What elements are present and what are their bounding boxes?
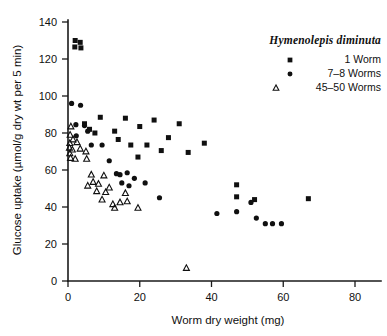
data-point-circle bbox=[157, 195, 162, 200]
data-point-square bbox=[186, 150, 191, 155]
x-tick-marks bbox=[68, 281, 355, 287]
data-point-square bbox=[116, 137, 121, 142]
x-tick-label: 60 bbox=[277, 291, 289, 303]
legend-label: 45–50 Worms bbox=[316, 81, 381, 93]
data-point-square bbox=[177, 121, 182, 126]
data-point-square bbox=[112, 129, 117, 134]
y-tick-label: 40 bbox=[45, 201, 57, 213]
data-point-triangle bbox=[183, 265, 189, 271]
data-point-square bbox=[73, 38, 78, 43]
data-point-circle bbox=[234, 209, 239, 214]
y-tick-label: 80 bbox=[45, 127, 57, 139]
data-point-circle bbox=[125, 170, 130, 175]
data-point-triangle bbox=[135, 205, 141, 211]
data-point-circle bbox=[73, 122, 78, 127]
data-point-circle bbox=[117, 172, 122, 177]
x-tick-labels: 020406080 bbox=[65, 291, 361, 303]
y-tick-label: 100 bbox=[39, 90, 57, 102]
y-tick-label: 120 bbox=[39, 53, 57, 65]
data-point-triangle bbox=[117, 199, 123, 205]
data-point-circle bbox=[119, 180, 124, 185]
series-square bbox=[72, 38, 311, 202]
data-point-triangle bbox=[99, 196, 105, 202]
data-point-square bbox=[135, 155, 140, 160]
data-point-layer bbox=[66, 38, 310, 270]
y-tick-label: 20 bbox=[45, 238, 57, 250]
data-point-circle bbox=[78, 103, 83, 108]
data-point-square bbox=[92, 131, 97, 136]
data-point-circle bbox=[99, 142, 104, 147]
x-tick-label: 40 bbox=[205, 291, 217, 303]
data-point-square bbox=[306, 196, 311, 201]
y-tick-labels: 020406080100120140 bbox=[39, 16, 57, 287]
data-point-circle bbox=[263, 221, 268, 226]
data-point-triangle bbox=[122, 190, 128, 196]
legend-marker-square bbox=[288, 58, 293, 63]
data-point-square bbox=[128, 143, 133, 148]
data-point-circle bbox=[85, 129, 90, 134]
legend-items: 1 Worm7–8 Worms45–50 Worms bbox=[273, 53, 381, 93]
x-tick-label: 0 bbox=[65, 291, 71, 303]
data-point-triangle bbox=[95, 181, 101, 187]
y-tick-marks bbox=[62, 22, 68, 281]
data-point-square bbox=[137, 124, 142, 129]
y-axis-title: Glucose uptake (µmol/g dry wt per 5 min) bbox=[11, 45, 23, 256]
legend-label: 7–8 Worms bbox=[328, 67, 382, 79]
data-point-triangle bbox=[84, 156, 90, 162]
data-point-square bbox=[78, 45, 83, 50]
data-point-triangle bbox=[90, 179, 96, 185]
data-point-square bbox=[159, 148, 164, 153]
data-point-square bbox=[166, 135, 171, 140]
data-point-circle bbox=[248, 200, 253, 205]
data-point-circle bbox=[89, 142, 94, 147]
data-point-square bbox=[202, 141, 207, 146]
data-point-circle bbox=[254, 216, 259, 221]
legend: Hymenolepis diminuta 1 Worm7–8 Worms45–5… bbox=[268, 34, 381, 93]
data-point-triangle bbox=[112, 205, 118, 211]
data-point-circle bbox=[279, 221, 284, 226]
data-point-circle bbox=[132, 176, 137, 181]
scatter-plot-figure: 020406080100120140 020406080 Glucose upt… bbox=[0, 0, 387, 336]
legend-title: Hymenolepis diminuta bbox=[268, 34, 381, 47]
y-tick-label: 60 bbox=[45, 164, 57, 176]
x-tick-label: 80 bbox=[349, 291, 361, 303]
data-point-triangle bbox=[77, 145, 83, 151]
data-point-square bbox=[144, 143, 149, 148]
data-point-square bbox=[123, 116, 128, 121]
data-point-circle bbox=[74, 133, 79, 138]
data-point-circle bbox=[214, 211, 219, 216]
data-point-circle bbox=[69, 101, 74, 106]
data-point-circle bbox=[143, 180, 148, 185]
data-point-circle bbox=[107, 158, 112, 163]
series-triangle bbox=[66, 123, 189, 270]
data-point-triangle bbox=[85, 182, 91, 188]
legend-marker-triangle bbox=[273, 85, 279, 90]
data-point-square bbox=[152, 118, 157, 123]
data-point-circle bbox=[82, 123, 87, 128]
x-tick-label: 20 bbox=[134, 291, 146, 303]
data-point-triangle bbox=[124, 198, 130, 204]
data-point-square bbox=[234, 182, 239, 187]
y-tick-label: 140 bbox=[39, 16, 57, 28]
plot-canvas: 020406080100120140 020406080 Glucose upt… bbox=[0, 0, 387, 336]
data-point-triangle bbox=[88, 171, 94, 177]
y-tick-label: 0 bbox=[51, 275, 57, 287]
data-point-triangle bbox=[106, 184, 112, 190]
data-point-square bbox=[98, 115, 103, 120]
x-axis-title: Worm dry weight (mg) bbox=[172, 314, 285, 326]
data-point-square bbox=[78, 40, 83, 45]
legend-marker-circle bbox=[288, 72, 293, 77]
data-point-circle bbox=[270, 221, 275, 226]
data-point-triangle bbox=[72, 156, 78, 162]
legend-label: 1 Worm bbox=[344, 53, 381, 65]
data-point-square bbox=[234, 194, 239, 199]
data-point-triangle bbox=[101, 172, 107, 178]
data-point-triangle bbox=[83, 148, 89, 154]
data-point-circle bbox=[126, 183, 131, 188]
data-point-triangle bbox=[94, 188, 100, 194]
data-point-square bbox=[72, 44, 77, 49]
